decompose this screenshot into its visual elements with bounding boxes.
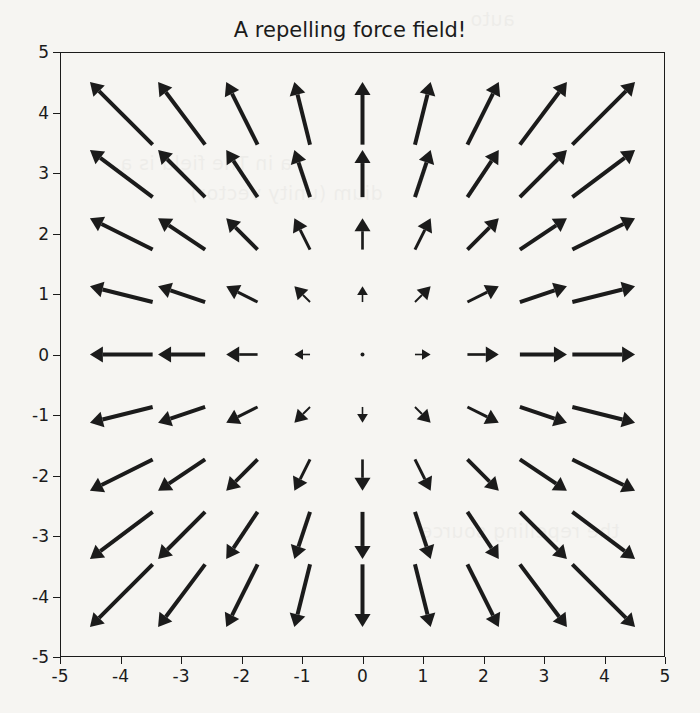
vector-arrow <box>226 346 257 362</box>
vector-arrow <box>520 82 567 145</box>
vector-arrow <box>158 283 205 302</box>
y-tick-mark <box>53 234 60 235</box>
y-tick-mark <box>53 657 60 658</box>
vector-arrow <box>90 512 153 559</box>
x-tick-label: -5 <box>52 666 69 686</box>
vector-arrow <box>520 459 567 490</box>
vector-arrow <box>158 346 205 362</box>
vector-arrow <box>226 218 257 249</box>
vector-arrow <box>226 407 257 424</box>
vector-arrow <box>291 512 310 559</box>
y-tick-label: 3 <box>38 163 49 183</box>
vector-arrow <box>293 459 310 490</box>
vector-arrow <box>90 459 153 492</box>
vector-arrow <box>467 512 498 559</box>
y-tick-label: 1 <box>38 284 49 304</box>
y-tick-mark <box>53 597 60 598</box>
vector-arrow <box>520 346 567 362</box>
vector-arrow <box>225 82 258 145</box>
vector-arrow <box>572 459 635 492</box>
vector-arrow <box>226 512 257 559</box>
vector-arrow <box>467 82 500 145</box>
x-tick-label: 1 <box>418 666 429 686</box>
vector-arrow <box>572 564 635 627</box>
vector-arrow <box>90 564 153 627</box>
x-tick-mark <box>544 657 545 664</box>
vector-arrow <box>520 407 567 426</box>
x-tick-mark <box>363 657 364 664</box>
vector-arrow <box>90 407 153 427</box>
y-tick-label: 5 <box>38 42 49 62</box>
vector-arrow <box>467 407 498 424</box>
vector-arrow <box>415 459 432 490</box>
plot-area <box>60 52 665 657</box>
x-tick-label: 5 <box>660 666 671 686</box>
vector-arrow <box>354 512 370 559</box>
vector-arrow <box>294 349 310 360</box>
vector-arrow <box>294 286 310 302</box>
vector-arrow <box>361 353 365 357</box>
y-tick-mark <box>53 415 60 416</box>
x-tick-mark <box>665 657 666 664</box>
y-tick-label: -3 <box>32 526 49 546</box>
vector-arrow <box>520 283 567 302</box>
vector-arrow <box>226 459 257 490</box>
x-tick-mark <box>423 657 424 664</box>
vector-arrow <box>290 82 310 145</box>
vector-arrow <box>158 512 205 559</box>
y-tick-mark <box>53 355 60 356</box>
vector-arrow <box>225 564 258 627</box>
vector-arrow <box>572 346 635 362</box>
vector-arrow <box>572 282 635 302</box>
vector-arrow <box>90 150 153 197</box>
chart-title: A repelling force field! <box>0 18 700 42</box>
vector-arrow <box>572 82 635 145</box>
vector-arrow <box>467 285 498 302</box>
y-tick-label: -2 <box>32 466 49 486</box>
vector-arrow <box>415 349 431 360</box>
vector-arrow <box>354 459 370 490</box>
vector-arrow <box>415 407 431 423</box>
vector-arrow <box>467 459 498 490</box>
vector-arrow <box>467 346 498 362</box>
vector-arrow <box>354 150 370 197</box>
x-tick-label: -1 <box>294 666 311 686</box>
y-tick-mark <box>53 294 60 295</box>
vector-arrow <box>291 150 310 197</box>
y-tick-label: 2 <box>38 224 49 244</box>
x-tick-mark <box>242 657 243 664</box>
x-tick-label: -3 <box>173 666 190 686</box>
vector-arrow <box>158 150 205 197</box>
x-tick-label: 4 <box>599 666 610 686</box>
vector-arrow <box>572 407 635 427</box>
vector-arrow <box>467 564 500 627</box>
x-tick-mark <box>302 657 303 664</box>
vector-arrow <box>158 564 205 627</box>
y-tick-mark <box>53 536 60 537</box>
y-tick-label: -5 <box>32 647 49 667</box>
vector-arrow <box>90 82 153 145</box>
vector-arrow <box>226 285 257 302</box>
vector-arrow <box>467 218 498 249</box>
x-tick-mark <box>60 657 61 664</box>
x-tick-mark <box>181 657 182 664</box>
x-tick-label: 3 <box>539 666 550 686</box>
vector-arrow <box>520 512 567 559</box>
vector-arrow <box>572 150 635 197</box>
vector-arrow <box>572 217 635 250</box>
vector-arrow <box>520 564 567 627</box>
y-tick-label: 4 <box>38 103 49 123</box>
x-tick-label: 0 <box>357 666 368 686</box>
vector-arrow <box>415 564 435 627</box>
x-tick-label: -4 <box>112 666 129 686</box>
vector-arrow <box>520 218 567 249</box>
vector-arrow <box>290 564 310 627</box>
vector-arrow <box>467 150 498 197</box>
y-tick-label: 0 <box>38 345 49 365</box>
x-tick-mark <box>605 657 606 664</box>
vector-arrow <box>357 407 368 423</box>
vector-arrow <box>354 564 370 627</box>
vector-arrow <box>520 150 567 197</box>
vector-arrow <box>415 512 434 559</box>
vector-arrow <box>354 218 370 249</box>
